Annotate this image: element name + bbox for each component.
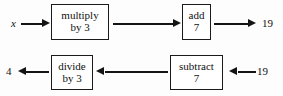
box-subtract-7: subtract 7: [170, 55, 223, 90]
input-label-19: 19: [257, 65, 268, 77]
box-divide-line1: divide: [58, 61, 86, 73]
box-add-7: add 7: [182, 4, 211, 40]
box-divide-by-3: divide by 3: [51, 55, 93, 90]
box-divide-line2: by 3: [62, 73, 81, 85]
input-label-x: x: [11, 17, 16, 29]
box-subtract-line2: 7: [194, 73, 200, 85]
box-add-line2: 7: [194, 22, 200, 34]
output-label-19: 19: [262, 17, 273, 29]
output-label-4: 4: [6, 65, 12, 77]
box-subtract-line1: subtract: [179, 61, 214, 73]
box-multiply-by-3: multiply by 3: [51, 4, 109, 40]
function-machine-diagram: x multiply by 3 add 7 19 4 divide by 3 s…: [0, 0, 283, 96]
box-multiply-line2: by 3: [70, 22, 89, 34]
